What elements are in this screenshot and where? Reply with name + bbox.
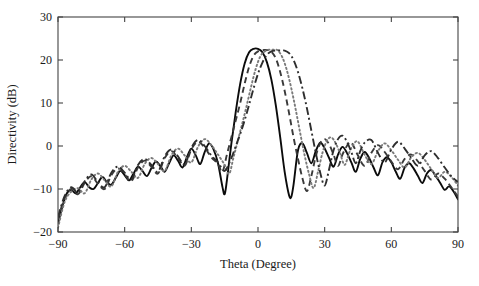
y-axis-title: Directivity (dB) (5, 84, 19, 164)
chart-figure: −90−60−300306090−20−100102030 Theta (Deg… (0, 0, 479, 286)
y-tick-label: 0 (46, 139, 52, 153)
directivity-plot: −90−60−300306090−20−100102030 Theta (Deg… (0, 0, 479, 286)
x-tick-label: 60 (385, 237, 397, 251)
x-tick-label: 90 (452, 237, 464, 251)
x-tick-label: −60 (115, 237, 134, 251)
x-tick-label: 0 (255, 237, 261, 251)
x-tick-label: −90 (49, 237, 68, 251)
y-tick-label: −10 (33, 182, 52, 196)
y-tick-label: 20 (40, 53, 52, 67)
x-tick-label: −30 (182, 237, 201, 251)
y-tick-label: 30 (40, 10, 52, 24)
y-tick-label: −20 (33, 225, 52, 239)
y-tick-label: 10 (40, 96, 52, 110)
x-axis-title: Theta (Degree) (220, 257, 296, 271)
x-tick-label: 30 (319, 237, 331, 251)
